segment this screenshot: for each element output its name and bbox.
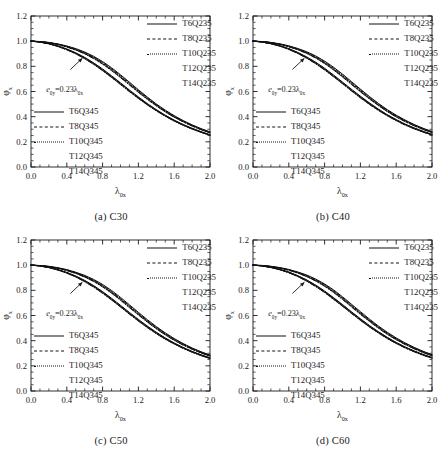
figure-root: 0.00.40.81.21.62.00.00.20.40.60.81.01.2λ…	[0, 0, 445, 449]
panel-caption-d: (d) C60	[222, 435, 444, 446]
y-axis-title: φx	[222, 310, 235, 320]
panel-d: 0.00.40.81.21.62.00.00.20.40.60.81.01.2λ…	[222, 224, 444, 448]
annotation-eccentricity-d: e0y=0.23λ0x	[268, 309, 305, 320]
legend-line-dashed-icon	[256, 123, 286, 131]
y-tick-label: 0.0	[16, 162, 27, 172]
legend-label: T6Q345	[69, 107, 98, 116]
panel-caption-a: (a) C30	[0, 211, 222, 222]
legend-label: T14Q235	[182, 303, 216, 312]
legend-line-dashdotdot-icon	[256, 168, 286, 176]
legend-label: T12Q235	[182, 288, 216, 297]
legend-label: T12Q345	[69, 152, 103, 161]
legend-label: T12Q235	[404, 288, 438, 297]
legend-line-dashdot-icon	[147, 65, 177, 73]
legend-line-dashed-icon	[147, 259, 177, 267]
legend-label: T8Q345	[69, 346, 98, 355]
legend-q235-c: T6Q235T8Q235T10Q235T12Q235T14Q235	[147, 240, 216, 315]
legend-line-dashdot-icon	[147, 289, 177, 297]
legend-q345-b-item: T12Q345	[256, 149, 325, 164]
legend-q345-a-item: T6Q345	[34, 104, 103, 119]
legend-q345-d-item: T6Q345	[256, 328, 325, 343]
legend-line-dashdotdot-icon	[147, 80, 177, 88]
legend-q345-a-item: T12Q345	[34, 149, 103, 164]
legend-label: T14Q345	[291, 167, 325, 176]
y-tick-label: 1.0	[16, 36, 27, 46]
y-tick-label: 0.4	[238, 112, 249, 122]
legend-q235-c-item: T14Q235	[147, 300, 216, 315]
legend-q345-c-item: T14Q345	[34, 388, 103, 403]
legend-q345-d-item: T14Q345	[256, 388, 325, 403]
x-tick-label: 1.6	[169, 395, 180, 405]
legend-q235-b: T6Q235T8Q235T10Q235T12Q235T14Q235	[369, 16, 438, 91]
x-tick-label: 2.0	[427, 395, 438, 405]
legend-label: T6Q235	[404, 243, 433, 252]
y-tick-label: 1.2	[238, 235, 249, 245]
y-axis-title-group: φx	[222, 86, 235, 96]
legend-line-dashdotdot-icon	[256, 392, 286, 400]
legend-line-dashdot-icon	[256, 377, 286, 385]
legend-label: T8Q345	[291, 346, 320, 355]
legend-line-dashed-icon	[369, 259, 399, 267]
y-tick-label: 0.0	[16, 386, 27, 396]
legend-line-dotted-icon	[369, 274, 399, 282]
y-tick-label: 1.2	[238, 11, 249, 21]
legend-q345-c-item: T10Q345	[34, 358, 103, 373]
legend-label: T8Q235	[404, 258, 433, 267]
legend-q235-a-item: T8Q235	[147, 31, 216, 46]
x-tick-label: 1.2	[355, 171, 366, 181]
legend-label: T6Q345	[291, 331, 320, 340]
legend-q235-a-item: T10Q235	[147, 46, 216, 61]
annotation-eccentricity-c: e0y=0.23λ0x	[46, 309, 83, 320]
legend-q235-d-item: T6Q235	[369, 240, 438, 255]
legend-line-dashed-icon	[256, 347, 286, 355]
legend-label: T10Q345	[291, 137, 325, 146]
legend-label: T12Q345	[69, 376, 103, 385]
legend-line-dashdot-icon	[369, 289, 399, 297]
x-tick-label: 1.2	[133, 395, 144, 405]
y-axis-title-group: φx	[222, 310, 235, 320]
legend-line-dashdot-icon	[256, 153, 286, 161]
x-tick-label: 2.0	[427, 171, 438, 181]
legend-q235-a-item: T6Q235	[147, 16, 216, 31]
legend-q235-d-item: T10Q235	[369, 270, 438, 285]
legend-line-dotted-icon	[34, 138, 64, 146]
legend-q345-b-item: T10Q345	[256, 134, 325, 149]
y-tick-label: 1.2	[16, 235, 27, 245]
legend-line-dotted-icon	[147, 274, 177, 282]
y-axis-title: φx	[0, 310, 13, 320]
y-tick-label: 0.2	[16, 137, 27, 147]
legend-label: T14Q345	[291, 391, 325, 400]
legend-label: T14Q235	[404, 79, 438, 88]
x-tick-label: 1.2	[133, 171, 144, 181]
y-tick-label: 0.6	[16, 87, 27, 97]
y-tick-label: 0.0	[238, 386, 249, 396]
legend-q235-d-item: T14Q235	[369, 300, 438, 315]
y-tick-label: 0.8	[16, 285, 27, 295]
legend-line-dashed-icon	[34, 123, 64, 131]
y-axis-title-group: φx	[0, 86, 13, 96]
x-axis-title: λ0x	[115, 185, 127, 198]
y-tick-label: 0.8	[16, 61, 27, 71]
y-tick-label: 0.2	[16, 361, 27, 371]
legend-q235-b-item: T8Q235	[369, 31, 438, 46]
legend-line-dashdotdot-icon	[34, 392, 64, 400]
legend-line-solid-icon	[34, 332, 64, 340]
y-axis-title-group: φx	[0, 310, 13, 320]
legend-line-dotted-icon	[34, 362, 64, 370]
legend-label: T10Q235	[404, 49, 438, 58]
panel-caption-c: (c) C50	[0, 435, 222, 446]
legend-q345-a-item: T8Q345	[34, 119, 103, 134]
legend-q235-c-item: T10Q235	[147, 270, 216, 285]
legend-q235-a-item: T12Q235	[147, 61, 216, 76]
legend-line-dotted-icon	[256, 138, 286, 146]
legend-q345-b-item: T8Q345	[256, 119, 325, 134]
legend-line-solid-icon	[147, 244, 177, 252]
legend-q235-c-item: T12Q235	[147, 285, 216, 300]
legend-line-dashdot-icon	[34, 153, 64, 161]
legend-label: T10Q345	[69, 137, 103, 146]
legend-q235-c-item: T8Q235	[147, 255, 216, 270]
legend-q235-b-item: T12Q235	[369, 61, 438, 76]
legend-label: T10Q345	[291, 361, 325, 370]
legend-line-dashdotdot-icon	[147, 304, 177, 312]
y-tick-label: 0.8	[238, 285, 249, 295]
